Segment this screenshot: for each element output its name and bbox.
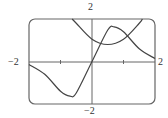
y-max-label: 2 <box>88 2 93 12</box>
x-max-label: 2 <box>158 57 163 67</box>
y-min-label: −2 <box>84 106 95 116</box>
x-min-label: −2 <box>8 57 19 67</box>
chart-canvas <box>0 0 168 118</box>
